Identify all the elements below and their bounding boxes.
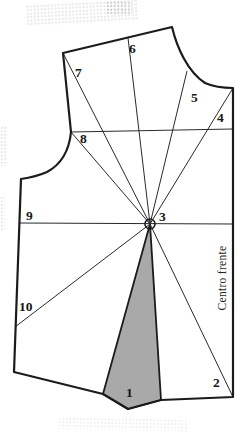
chest-construction-line bbox=[71, 129, 233, 132]
bust-construction-line bbox=[19, 223, 233, 224]
slash-line-4 bbox=[150, 88, 233, 224]
label-8: 8 bbox=[80, 131, 87, 146]
waist-dart-shape bbox=[103, 224, 161, 409]
label-1: 1 bbox=[126, 385, 133, 400]
label-9: 9 bbox=[26, 208, 33, 223]
center-front-caption: Centro frente bbox=[216, 246, 228, 311]
label-7: 7 bbox=[75, 65, 82, 80]
label-10: 10 bbox=[19, 299, 33, 314]
label-2: 2 bbox=[213, 375, 220, 390]
bodice-front-pattern-figure: 1 2 3 4 5 6 7 8 9 10 Centro frente bbox=[0, 0, 248, 434]
slash-line-5 bbox=[150, 71, 187, 224]
label-6: 6 bbox=[129, 41, 136, 56]
pattern-diagram-page: 1 2 3 4 5 6 7 8 9 10 Centro frente bbox=[0, 0, 248, 434]
label-3: 3 bbox=[159, 209, 166, 224]
label-5: 5 bbox=[191, 90, 198, 105]
label-4: 4 bbox=[217, 110, 224, 125]
